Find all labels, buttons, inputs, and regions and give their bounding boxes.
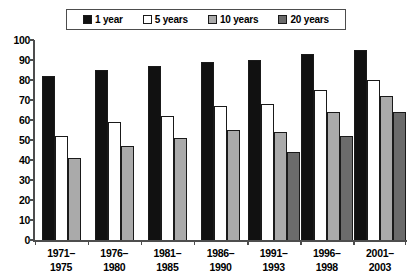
bar-group xyxy=(300,40,353,240)
legend-item-label: 10 years xyxy=(220,15,258,25)
bar[interactable] xyxy=(121,146,134,240)
y-tick-label: 70 xyxy=(2,95,30,105)
x-axis-label-line: 1985 xyxy=(141,260,194,274)
bar[interactable] xyxy=(261,104,274,240)
y-tick-label: 0 xyxy=(2,235,30,245)
x-axis-label-line: 2001– xyxy=(353,246,406,260)
bar[interactable] xyxy=(393,112,406,240)
y-tick-label: 80 xyxy=(2,75,30,85)
bar[interactable] xyxy=(161,116,174,240)
bar[interactable] xyxy=(367,80,380,240)
chart-legend: 1 year5 years10 years20 years xyxy=(66,9,346,30)
bar[interactable] xyxy=(148,66,161,240)
y-tick-label: 30 xyxy=(2,175,30,185)
y-tick-mark xyxy=(29,199,34,201)
y-tick-mark xyxy=(29,139,34,141)
bar[interactable] xyxy=(214,106,227,240)
x-axis-label: 1991–1993 xyxy=(247,246,300,279)
y-tick-label: 100 xyxy=(2,35,30,45)
bar[interactable] xyxy=(301,54,314,240)
bar-group xyxy=(35,40,88,240)
x-tick-mark xyxy=(353,240,355,245)
bar[interactable] xyxy=(354,50,367,240)
y-tick-mark xyxy=(29,119,34,121)
legend-item-label: 5 years xyxy=(155,15,188,25)
bar[interactable] xyxy=(227,130,240,240)
x-tick-mark xyxy=(88,240,90,245)
x-axis-label-line: 1971– xyxy=(35,246,88,260)
bar[interactable] xyxy=(314,90,327,240)
legend-swatch-light-gray xyxy=(208,15,217,24)
y-tick-label: 10 xyxy=(2,215,30,225)
y-tick-label: 50 xyxy=(2,135,30,145)
bar[interactable] xyxy=(95,70,108,240)
x-axis-labels: 1971–19751976–19801981–19851986–19901991… xyxy=(35,246,407,279)
bar[interactable] xyxy=(248,60,261,240)
y-tick-mark xyxy=(29,79,34,81)
x-axis-label: 1971–1975 xyxy=(35,246,88,279)
x-tick-mark xyxy=(300,240,302,245)
x-axis-label-line: 1991– xyxy=(247,246,300,260)
x-axis-label-line: 1993 xyxy=(247,260,300,274)
x-axis-label-line: 1980 xyxy=(88,260,141,274)
x-axis-label-line: 1990 xyxy=(194,260,247,274)
x-axis-label: 1976–1980 xyxy=(88,246,141,279)
y-tick-label: 20 xyxy=(2,195,30,205)
legend-swatch-dark-gray xyxy=(278,15,287,24)
bar-group xyxy=(141,40,194,240)
bar[interactable] xyxy=(380,96,393,240)
legend-item-label: 20 years xyxy=(290,15,328,25)
y-tick-mark xyxy=(29,159,34,161)
y-tick-label: 40 xyxy=(2,155,30,165)
y-tick-label: 90 xyxy=(2,55,30,65)
x-axis-label-line: 1975 xyxy=(35,260,88,274)
x-tick-mark xyxy=(405,240,407,245)
y-tick-mark xyxy=(29,179,34,181)
x-axis-label-line: 1976– xyxy=(88,246,141,260)
y-tick-label: 60 xyxy=(2,115,30,125)
bar[interactable] xyxy=(55,136,68,240)
legend-item-5-years[interactable]: 5 years xyxy=(143,15,188,25)
legend-item-1-year[interactable]: 1 year xyxy=(83,15,123,25)
legend-item-label: 1 year xyxy=(95,15,123,25)
bar[interactable] xyxy=(108,122,121,240)
legend-swatch-white xyxy=(143,15,152,24)
y-axis-labels: 1009080706050403020100 xyxy=(0,40,30,240)
x-axis-label: 1986–1990 xyxy=(194,246,247,279)
x-axis-label: 2001–2003 xyxy=(353,246,406,279)
bar-group xyxy=(247,40,300,240)
bar[interactable] xyxy=(327,112,340,240)
plot-area: 1009080706050403020100 xyxy=(0,40,410,248)
y-tick-mark xyxy=(29,39,34,41)
x-axis-label: 1996–1998 xyxy=(300,246,353,279)
y-tick-mark xyxy=(29,59,34,61)
bar[interactable] xyxy=(174,138,187,240)
bar-chart: 1 year5 years10 years20 years 1009080706… xyxy=(0,0,410,279)
x-axis-label-line: 1986– xyxy=(194,246,247,260)
bar[interactable] xyxy=(68,158,81,240)
bar[interactable] xyxy=(42,76,55,240)
x-tick-mark xyxy=(141,240,143,245)
x-axis-label-line: 1981– xyxy=(141,246,194,260)
bar[interactable] xyxy=(340,136,353,240)
bar-group xyxy=(88,40,141,240)
bar[interactable] xyxy=(274,132,287,240)
bar[interactable] xyxy=(287,152,300,240)
x-axis-label-line: 2003 xyxy=(353,260,406,274)
y-tick-mark xyxy=(29,239,34,241)
x-axis-label-line: 1998 xyxy=(300,260,353,274)
bar[interactable] xyxy=(201,62,214,240)
legend-item-10-years[interactable]: 10 years xyxy=(208,15,258,25)
x-tick-mark xyxy=(247,240,249,245)
x-tick-mark xyxy=(194,240,196,245)
x-axis-label-line: 1996– xyxy=(300,246,353,260)
legend-item-20-years[interactable]: 20 years xyxy=(278,15,328,25)
bar-group xyxy=(194,40,247,240)
bar-group xyxy=(353,40,406,240)
y-tick-mark xyxy=(29,219,34,221)
y-tick-mark xyxy=(29,99,34,101)
x-tick-mark xyxy=(35,240,37,245)
legend-swatch-black xyxy=(83,15,92,24)
bars-area xyxy=(35,40,407,240)
x-axis-label: 1981–1985 xyxy=(141,246,194,279)
